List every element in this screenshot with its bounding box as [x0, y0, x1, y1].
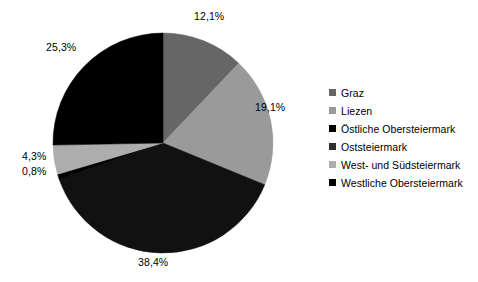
legend-swatch-icon [329, 143, 336, 150]
legend-item-label: Westliche Obersteiermark [341, 177, 463, 189]
legend-item-label: Oststeiermark [341, 141, 407, 153]
pie-svg [0, 0, 300, 282]
legend-item[interactable]: Westliche Obersteiermark [329, 174, 475, 191]
legend-swatch-icon [329, 179, 336, 186]
legend-item[interactable]: Liezen [329, 102, 475, 119]
legend-swatch-icon [329, 125, 336, 132]
pie-slices-group [53, 33, 273, 253]
slice-label-oestliche-obersteiermark: 0,8% [22, 165, 46, 177]
slice-label-westliche-obersteiermark: 25,3% [46, 41, 76, 53]
legend-swatch-icon [329, 107, 336, 114]
legend-item[interactable]: Östliche Obersteiermark [329, 120, 475, 137]
pie-plot-area: 12,1% 19,1% 4,3% 0,8% 38,4% 25,3% [0, 0, 300, 282]
slice-label-liezen: 19,1% [255, 101, 285, 113]
legend-item-label: Graz [341, 87, 364, 99]
legend-item-label: Östliche Obersteiermark [341, 123, 455, 135]
slice-label-graz: 12,1% [194, 10, 224, 22]
legend-item[interactable]: Oststeiermark [329, 138, 475, 155]
legend-item-label: Liezen [341, 105, 372, 117]
slice-label-west-und-suedsteiermark: 4,3% [22, 150, 46, 162]
legend-item[interactable]: Graz [329, 84, 475, 101]
legend-swatch-icon [329, 89, 336, 96]
slice-label-oststeiermark: 38,4% [138, 256, 168, 268]
pie-chart-figure: 12,1% 19,1% 4,3% 0,8% 38,4% 25,3% GrazLi… [0, 0, 478, 282]
chart-legend: GrazLiezenÖstliche ObersteiermarkOststei… [329, 84, 475, 192]
legend-swatch-icon [329, 161, 336, 168]
legend-item[interactable]: West- und Südsteiermark [329, 156, 475, 173]
legend-item-label: West- und Südsteiermark [341, 159, 460, 171]
